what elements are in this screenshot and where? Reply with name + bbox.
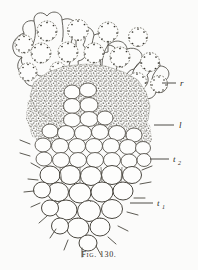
label-t2-text: t <box>173 154 176 164</box>
label-l: l <box>154 120 182 130</box>
figure-page: r l t 2 t 1 Fig. 130. <box>0 0 198 270</box>
label-t1: t 1 <box>130 198 165 210</box>
label-l-text: l <box>179 120 182 130</box>
label-r-text: r <box>180 78 184 88</box>
label-t2-subscript: 2 <box>178 160 181 166</box>
label-t1-subscript: 1 <box>162 204 165 210</box>
figure-drawing: r l t 2 t 1 <box>13 12 184 257</box>
botanical-figure: r l t 2 t 1 <box>0 0 198 270</box>
figure-caption: Fig. 130. <box>0 250 198 259</box>
label-t1-text: t <box>157 198 160 208</box>
label-t2: t 2 <box>150 154 181 166</box>
